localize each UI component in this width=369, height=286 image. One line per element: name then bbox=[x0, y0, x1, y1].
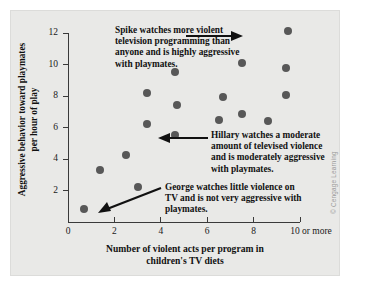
copyright-credit: © Cengage Learning bbox=[330, 144, 337, 214]
annotation-hillary: Hillary watches a moderateamount of tele… bbox=[211, 130, 336, 175]
y-axis-label: Aggressive behavior toward playmatesper … bbox=[17, 30, 40, 210]
plot-axes-area: 24681012 0246810 or more Spike watches m… bbox=[0, 0, 369, 286]
x-axis-label: Number of violent acts per program inchi… bbox=[60, 243, 310, 267]
annotation-george: George watches little violence onTV and … bbox=[165, 182, 310, 216]
scatter-plot-figure: 24681012 0246810 or more Spike watches m… bbox=[0, 0, 369, 286]
annotation-spike: Spike watches more violenttelevision pro… bbox=[115, 25, 245, 70]
